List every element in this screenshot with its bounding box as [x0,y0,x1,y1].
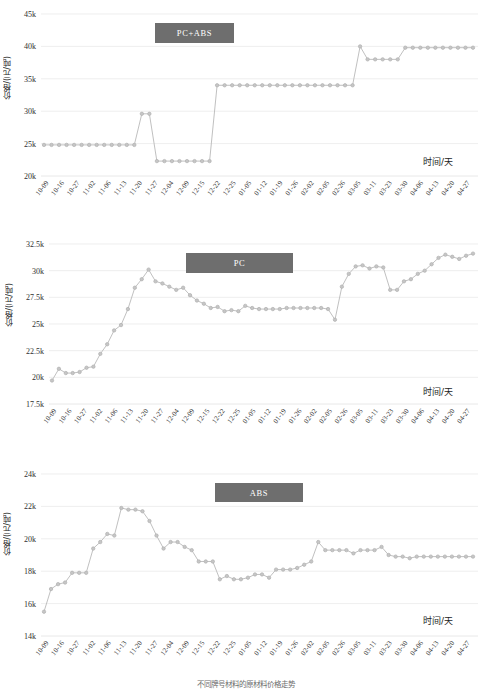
data-point-marker [352,552,355,555]
x-tick-label: 03-11 [362,179,379,197]
x-tick-label: 01-12 [253,179,270,197]
x-tick-label: 12-15 [190,639,207,657]
data-point-marker [456,46,459,49]
data-point-marker [261,84,264,87]
series-line-pcabs [42,45,474,163]
x-tick-label: 04-27 [456,407,473,425]
data-point-marker [306,84,309,87]
data-point-marker [57,367,60,370]
data-point-marker [464,555,467,558]
data-point-marker [211,560,214,563]
y-tick-label: 24k [24,470,36,479]
data-point-marker [133,286,136,289]
data-point-marker [368,267,371,270]
data-point-marker [168,285,171,288]
data-point-marker [253,573,256,576]
x-tick-label: 01-12 [253,639,270,657]
data-point-marker [359,548,362,551]
x-tick-label: 12-25 [221,179,238,197]
data-point-marker [276,84,279,87]
data-point-marker [436,555,439,558]
data-point-marker [328,84,331,87]
data-point-marker [50,143,53,146]
data-point-marker [246,84,249,87]
x-tick-label: 01-26 [284,179,301,197]
data-point-marker [295,566,298,569]
data-point-marker [358,45,361,48]
x-tick-label: 03-23 [377,639,394,657]
legend-pc-abs: PC+ABS [155,23,234,43]
data-point-marker [85,571,88,574]
x-tick-label: 12-04 [159,179,176,197]
x-tick-label: 12-04 [164,407,181,425]
data-point-marker [202,302,205,305]
data-point-marker [340,285,343,288]
x-tick-label: 12-09 [175,179,192,197]
data-point-marker [333,318,336,321]
data-point-marker [429,555,432,558]
x-tick-label: 03-30 [393,179,410,197]
y-tick-label: 20k [24,172,36,181]
y-tick-label: 32.5k [26,240,44,249]
x-tick-label: 04-13 [424,639,441,657]
yaxis-ticklabels-abs: 14k16k18k20k22k24k [24,470,36,641]
data-point-marker [120,506,123,509]
data-point-marker [303,563,306,566]
x-tick-label: 02-05 [318,407,335,425]
data-point-marker [237,310,240,313]
data-point-marker [92,547,95,550]
data-point-marker [215,84,218,87]
x-tick-label: 11-06 [97,639,114,657]
data-point-marker [181,286,184,289]
x-tick-label: 12-04 [159,639,176,657]
data-point-marker [338,548,341,551]
y-tick-label: 18k [24,567,36,576]
y-tick-label: 14k [24,632,36,641]
x-tick-label: 01-05 [241,407,258,425]
x-tick-label: 01-19 [268,179,285,197]
data-point-marker [396,58,399,61]
data-point-marker [268,84,271,87]
x-tick-label: 04-20 [440,407,457,425]
data-point-marker [92,365,95,368]
data-point-marker [366,58,369,61]
x-tick-label: 11-13 [119,407,136,425]
data-point-marker [444,253,447,256]
data-point-marker [422,555,425,558]
x-tick-label: 01-26 [284,639,301,657]
data-point-marker [178,159,181,162]
data-point-marker [253,84,256,87]
data-point-marker [380,545,383,548]
data-point-marker [127,508,130,511]
data-point-marker [267,576,270,579]
y-axis-title: 价格/(元/吨) [2,512,13,556]
x-axis-title: 时间/天 [423,614,453,627]
x-tick-label: 01-19 [272,407,289,425]
data-point-marker [283,84,286,87]
data-point-marker [345,548,348,551]
data-point-marker [375,265,378,268]
data-point-marker [141,510,144,513]
x-tick-label: 03-23 [379,407,396,425]
data-point-marker [197,560,200,563]
data-point-marker [126,307,129,310]
data-point-marker [185,159,188,162]
data-point-marker [140,278,143,281]
data-point-marker [326,307,329,310]
data-point-marker [416,272,419,275]
data-point-marker [77,571,80,574]
x-tick-label: 01-19 [268,639,285,657]
x-tick-label: 10-09 [34,179,51,197]
data-point-marker [457,555,460,558]
data-point-marker [190,548,193,551]
data-point-marker [50,379,53,382]
data-point-marker [110,143,113,146]
data-point-marker [42,610,45,613]
data-point-marker [64,371,67,374]
data-point-marker [176,540,179,543]
data-point-marker [419,46,422,49]
data-point-marker [394,555,397,558]
x-tick-label: 12-25 [221,639,238,657]
x-tick-label: 10-16 [57,407,74,425]
data-point-marker [49,587,52,590]
